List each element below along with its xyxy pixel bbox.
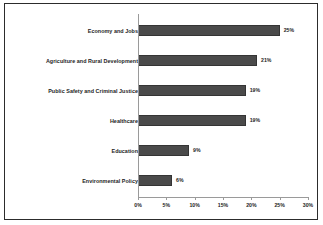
x-axis-tick-label: 25% <box>267 202 293 208</box>
bar-value-label: 25% <box>284 25 294 36</box>
x-axis-tick <box>138 197 139 200</box>
bar-row: Economy and Jobs25% <box>5 16 319 46</box>
x-axis-tick <box>280 197 281 200</box>
bar-row: Environmental Policy6% <box>5 166 319 196</box>
bar-value-label: 21% <box>261 55 271 66</box>
bar-row: Healthcare19% <box>5 106 319 136</box>
bar[interactable] <box>138 25 280 36</box>
x-axis-tick <box>195 197 196 200</box>
category-label: Agriculture and Rural Development <box>46 46 138 76</box>
category-label: Public Safety and Criminal Justice <box>48 76 138 106</box>
bar-track: 19% <box>138 76 319 106</box>
bar-row: Education9% <box>5 136 319 166</box>
bar-track: 19% <box>138 106 319 136</box>
category-label: Education <box>111 136 138 166</box>
bar-track: 9% <box>138 136 319 166</box>
bar[interactable] <box>138 115 246 126</box>
x-axis-tick-label: 20% <box>238 202 264 208</box>
x-axis-tick-label: 10% <box>182 202 208 208</box>
bar-row: Agriculture and Rural Development21% <box>5 46 319 76</box>
x-axis-tick <box>166 197 167 200</box>
category-label: Environmental Policy <box>82 166 138 196</box>
bar[interactable] <box>138 55 257 66</box>
bar-value-label: 9% <box>193 145 201 156</box>
category-label: Economy and Jobs <box>88 16 138 46</box>
bar[interactable] <box>138 85 246 96</box>
bar-value-label: 19% <box>250 85 260 96</box>
x-axis-tick-label: 5% <box>153 202 179 208</box>
x-axis-tick <box>308 197 309 200</box>
bar-value-label: 6% <box>176 175 184 186</box>
x-axis-tick-label: 15% <box>210 202 236 208</box>
bar-row: Public Safety and Criminal Justice19% <box>5 76 319 106</box>
bar-track: 25% <box>138 16 319 46</box>
x-axis-tick-label: 30% <box>295 202 321 208</box>
y-axis-line <box>138 14 139 197</box>
chart-frame: Economy and Jobs25%Agriculture and Rural… <box>4 3 318 220</box>
bar-track: 21% <box>138 46 319 76</box>
category-label: Healthcare <box>110 106 138 136</box>
x-axis-tick-label: 0% <box>125 202 151 208</box>
bar-value-label: 19% <box>250 115 260 126</box>
bar-track: 6% <box>138 166 319 196</box>
bar[interactable] <box>138 145 189 156</box>
x-axis-tick <box>223 197 224 200</box>
plot-area: Economy and Jobs25%Agriculture and Rural… <box>5 4 319 221</box>
bar[interactable] <box>138 175 172 186</box>
x-axis-tick <box>251 197 252 200</box>
